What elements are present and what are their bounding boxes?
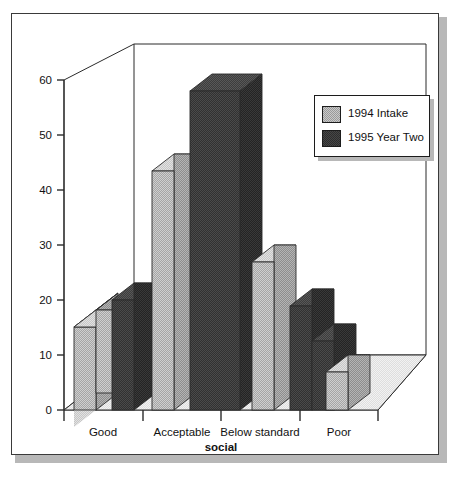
legend-label-1994: 1994 Intake: [348, 108, 408, 120]
y-tick-label: 30: [39, 239, 52, 251]
x-tick-label-acceptable: Acceptable: [154, 426, 211, 438]
x-tick-label-good: Good: [89, 426, 117, 438]
plot-area: 0 10 20 30 40 50 60: [12, 14, 440, 456]
legend-swatch-icon-1995: [322, 130, 341, 147]
x-tick-label-below-standard: Below standard: [220, 426, 299, 438]
bar-group-acceptable: [152, 74, 262, 410]
y-tick-label: 40: [39, 184, 52, 196]
chart-figure: 0 10 20 30 40 50 60: [0, 0, 458, 480]
bar-1995-good: [112, 283, 156, 410]
bar-1994-below-standard: [252, 245, 296, 410]
chart-legend[interactable]: 1994 Intake 1995 Year Two: [314, 95, 430, 157]
y-axis: 0 10 20 30 40 50 60: [39, 74, 64, 416]
x-axis: Good Acceptable Below standard Poor: [64, 410, 378, 438]
bar-1994-acceptable: [152, 154, 196, 410]
legend-label-1995: 1995 Year Two: [348, 132, 424, 144]
legend-swatch-icon-1994: [322, 106, 341, 123]
y-tick-label: 60: [39, 74, 52, 86]
y-tick-label: 10: [39, 349, 52, 361]
y-tick-label: 0: [46, 404, 52, 416]
chart-svg: 0 10 20 30 40 50 60: [12, 14, 440, 456]
y-tick-label: 50: [39, 129, 52, 141]
chart-frame: 0 10 20 30 40 50 60: [11, 13, 439, 455]
legend-item-1995-year-two[interactable]: 1995 Year Two: [322, 127, 423, 149]
x-axis-title: social: [205, 441, 238, 453]
bar-1995-acceptable: [190, 74, 262, 410]
y-tick-label: 20: [39, 294, 52, 306]
legend-item-1994-intake[interactable]: 1994 Intake: [322, 103, 423, 125]
bar-group-poor: [312, 324, 370, 410]
x-tick-label-poor: Poor: [327, 426, 351, 438]
